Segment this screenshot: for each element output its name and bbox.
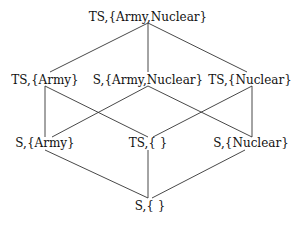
edge-ts-army-to-ts-empty: [45, 86, 148, 137]
node-ts-army: TS,{Army}: [11, 73, 78, 87]
edge-ts-army-nuclear-to-ts-nuclear: [148, 23, 247, 72]
edge-s-nuclear-to-s-empty: [152, 150, 245, 198]
edge-s-army-to-s-empty: [45, 150, 148, 198]
node-ts-empty: TS,{ }: [129, 136, 168, 150]
node-ts-nuclear: TS,{Nuclear}: [208, 73, 292, 87]
node-s-nuclear: S,{Nuclear}: [213, 136, 289, 150]
node-s-empty: S,{ }: [135, 199, 166, 213]
node-s-army: S,{Army}: [15, 136, 74, 150]
edge-s-army-nuclear-to-s-army: [52, 86, 148, 137]
lattice-edges: [0, 0, 297, 229]
security-lattice-diagram: TS,{Army,Nuclear} TS,{Army} S,{Army,Nucl…: [0, 0, 297, 229]
node-s-army-nuclear: S,{Army,Nuclear}: [93, 73, 203, 87]
node-ts-army-nuclear: TS,{Army,Nuclear}: [89, 10, 207, 24]
edge-ts-army-nuclear-to-ts-army: [50, 23, 148, 72]
